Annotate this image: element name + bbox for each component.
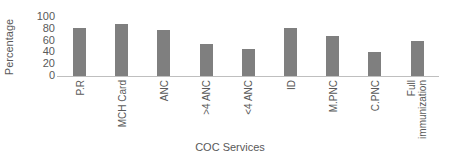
bar: [200, 44, 213, 76]
y-tick-label: 0: [49, 70, 55, 81]
x-axis-title: COC Services: [0, 141, 460, 153]
bar: [284, 28, 297, 76]
x-tick-label: P.R: [73, 80, 87, 130]
bar: [368, 52, 381, 76]
x-tick-label: ID: [284, 80, 298, 130]
x-axis-line: [57, 76, 439, 77]
bar: [326, 36, 339, 76]
bar: [411, 41, 424, 76]
bar: [242, 49, 255, 76]
y-axis-title-text: Percentage: [3, 19, 15, 75]
y-tick-label: 20: [43, 58, 55, 69]
x-tick-label: <4 ANC: [241, 80, 255, 130]
plot-area: [57, 17, 439, 76]
x-tick-label: C.PNC: [368, 80, 382, 130]
x-tick-label: Fullimmunization: [410, 80, 424, 130]
y-tick-label: 60: [43, 35, 55, 46]
x-tick-label: MCH Card: [115, 80, 129, 130]
y-tick-label: 100: [37, 11, 55, 22]
y-tick-label: 80: [43, 23, 55, 34]
bar-chart: Percentage 020406080100 P.RMCH CardANC>4…: [0, 0, 460, 163]
bar: [157, 30, 170, 76]
x-tick-label: >4 ANC: [199, 80, 213, 130]
y-tick-label: 40: [43, 46, 55, 57]
x-tick-label: ANC: [157, 80, 171, 130]
y-axis-title: Percentage: [2, 18, 16, 76]
x-tick-label: M.PNC: [326, 80, 340, 130]
bar: [115, 24, 128, 76]
bar: [73, 28, 86, 76]
